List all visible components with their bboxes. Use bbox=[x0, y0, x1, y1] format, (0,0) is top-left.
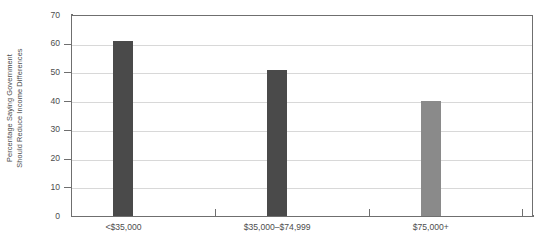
y-tick-label: 0 bbox=[38, 212, 60, 221]
gridline bbox=[72, 73, 532, 74]
plot-area bbox=[72, 15, 533, 216]
x-tick-mark bbox=[369, 209, 370, 216]
x-tick-mark bbox=[215, 209, 216, 216]
x-category-label: $35,000–$74,999 bbox=[244, 222, 311, 232]
x-category-label: <$35,000 bbox=[105, 222, 141, 232]
x-category-label: $75,000+ bbox=[413, 222, 449, 232]
y-axis-title-line-2: Should Reduce Income Differences bbox=[15, 48, 25, 167]
x-tick-mark bbox=[522, 209, 523, 216]
y-tick-label: 20 bbox=[38, 154, 60, 163]
y-tick-label: 60 bbox=[38, 39, 60, 48]
y-tick-label: 10 bbox=[38, 183, 60, 192]
y-axis-title: Percentage Saying Government Should Redu… bbox=[0, 0, 30, 216]
y-tick-label: 70 bbox=[38, 11, 60, 20]
bar bbox=[113, 41, 133, 216]
gridline bbox=[72, 102, 532, 103]
y-tick-label: 50 bbox=[38, 68, 60, 77]
gridline bbox=[72, 45, 532, 46]
y-axis-title-line-1: Percentage Saying Government bbox=[5, 48, 15, 167]
gridline bbox=[72, 160, 532, 161]
gridline bbox=[72, 131, 532, 132]
y-tick-label: 30 bbox=[38, 125, 60, 134]
bar bbox=[421, 101, 441, 216]
bar bbox=[267, 70, 287, 216]
bar-chart: Percentage Saying Government Should Redu… bbox=[0, 0, 546, 248]
y-tick-label: 40 bbox=[38, 97, 60, 106]
gridline bbox=[72, 188, 532, 189]
